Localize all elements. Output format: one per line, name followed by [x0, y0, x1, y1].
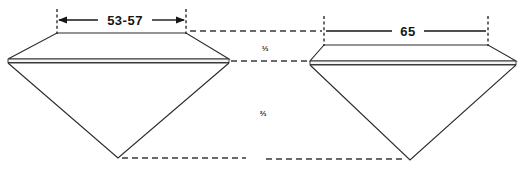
left-dim-arrow-right	[176, 17, 185, 24]
left-dim-arrow-left	[58, 17, 67, 24]
crown-fraction-label: ⅓	[262, 44, 269, 53]
right-stone-group	[310, 45, 516, 160]
right-dimension-group: 65	[324, 16, 488, 46]
gemstone-proportion-diagram: 53-57 65 ⅓ ⅔	[0, 0, 524, 174]
left-table-dimension-label: 53-57	[107, 13, 143, 28]
left-stone-group	[8, 33, 229, 158]
right-stone-crown-outline	[310, 45, 516, 61]
left-stone-crown-outline	[8, 33, 229, 59]
right-table-dimension-label: 65	[400, 24, 415, 39]
diagram-canvas: 53-57 65 ⅓ ⅔	[0, 0, 524, 174]
right-stone-pavilion-outline	[310, 65, 516, 160]
pavilion-fraction-label: ⅔	[260, 109, 267, 118]
left-dimension-group: 53-57	[57, 9, 186, 34]
left-stone-pavilion-outline	[8, 63, 229, 158]
